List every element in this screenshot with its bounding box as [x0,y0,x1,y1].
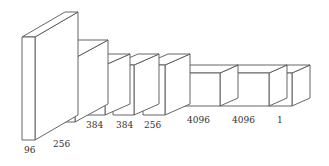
layer-blocks [22,12,310,140]
layer-size-label: 4096 [232,115,255,125]
layer-size-label: 1 [277,115,283,125]
layer-size-label: 384 [86,120,103,130]
cnn-architecture-diagram: 96256384384256409640961 [0,0,329,166]
layer-size-label: 96 [24,145,36,155]
layer-size-label: 256 [53,139,70,149]
layer-size-label: 4096 [187,115,210,125]
layer-size-label: 384 [116,120,133,130]
block-front-face [22,37,35,140]
layer-size-label: 256 [144,120,161,130]
